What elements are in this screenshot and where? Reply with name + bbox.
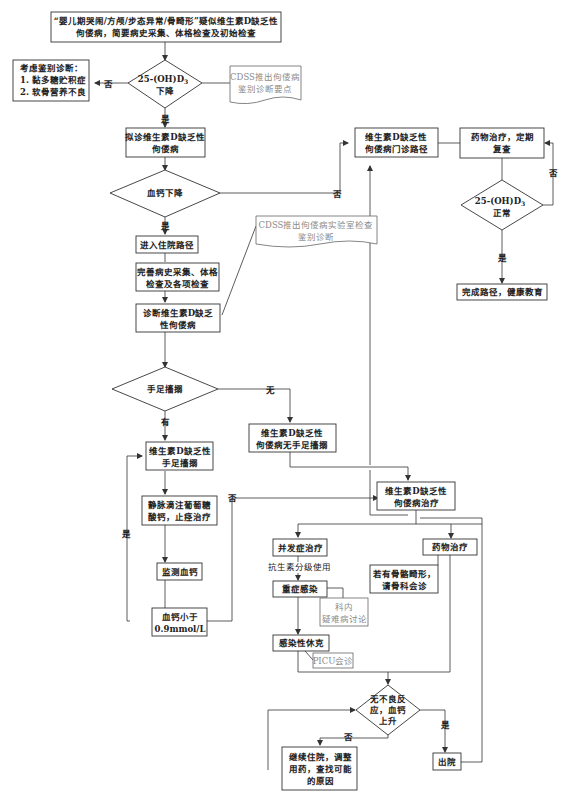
node-complete-path: 完成路径，健康教育: [457, 284, 547, 300]
cdss-note-picu: PICU会诊: [313, 653, 354, 668]
svg-text:科内: 科内: [335, 602, 353, 612]
svg-text:的原因: 的原因: [307, 776, 334, 786]
node-differential-diagnosis: 考虑鉴别诊断： 1. 黏多糖贮积症 2. 软骨营养不良: [13, 60, 89, 101]
svg-text:无不良反: 无不良反: [369, 694, 406, 704]
svg-text:CDSS推出佝偻病: CDSS推出佝偻病: [230, 72, 300, 82]
svg-text:佝偻病，简要病史采集、体格检查及初始检查: 佝偻病，简要病史采集、体格检查及初始检查: [76, 28, 256, 38]
edge-label-yes-loop: 是: [121, 529, 131, 539]
svg-text:佝偻病无手足搐搦: 佝偻病无手足搐搦: [256, 440, 328, 450]
svg-text:维生素D缺乏性: 维生素D缺乏性: [149, 446, 210, 456]
svg-text:手足搐搦: 手足搐搦: [147, 384, 183, 394]
svg-text:复查: 复查: [492, 144, 511, 154]
svg-text:CDSS推出佝偻病实验室检查: CDSS推出佝偻病实验室检查: [259, 220, 374, 230]
node-iv-calcium: 静脉滴注葡萄糖 酸钙，止痉治疗: [142, 496, 217, 525]
edge-label-none: 无: [265, 385, 275, 395]
svg-text:维生素D缺乏性: 维生素D缺乏性: [261, 428, 322, 438]
svg-text:疑难病讨论: 疑难病讨论: [322, 614, 367, 624]
edge-label-yes-complete: 是: [497, 253, 507, 263]
edge-label-no-diffdx: 否: [103, 79, 113, 89]
svg-text:检查及各项检查: 检查及各项检查: [146, 279, 209, 289]
svg-text:请骨科会诊: 请骨科会诊: [382, 581, 427, 591]
edge-label-yes-discharge: 是: [440, 720, 450, 730]
svg-text:佝偻病: 佝偻病: [152, 144, 179, 154]
node-orthopedic-consult: 若有骨骼畸形， 请骨科会诊: [370, 565, 438, 593]
svg-text:并发症治疗: 并发症治疗: [278, 543, 323, 553]
svg-text:佝偻病治疗: 佝偻病治疗: [394, 498, 439, 508]
svg-text:拟诊维生素D缺乏性: 拟诊维生素D缺乏性: [125, 132, 204, 142]
svg-text:感染性休克: 感染性休克: [279, 638, 324, 648]
svg-text:正常: 正常: [493, 208, 511, 218]
edge-label-has: 有: [161, 417, 170, 427]
svg-text:药物治疗，定期: 药物治疗，定期: [471, 132, 534, 142]
svg-text:血钙下降: 血钙下降: [147, 188, 183, 198]
cdss-note-department-discussion: 科内 疑难病讨论: [320, 598, 368, 626]
svg-text:25-(OH)D3: 25-(OH)D3: [138, 74, 188, 85]
decision-no-adverse-reaction: 无不良反 应，血钙 上升: [356, 685, 420, 735]
svg-text:监测血钙: 监测血钙: [162, 567, 198, 577]
edge-label-yes-suspect: 是: [160, 114, 170, 124]
svg-text:用药，查找可能: 用药，查找可能: [288, 764, 352, 774]
svg-text:若有骨骼畸形，: 若有骨骼畸形，: [372, 569, 436, 579]
node-treatment: 维生素D缺乏性 佝偻病治疗: [377, 482, 455, 510]
node-suspected-diagnosis: 拟诊维生素D缺乏性 佝偻病: [125, 128, 205, 157]
svg-text:上升: 上升: [379, 716, 397, 726]
edge-label-no-d3loop: 否: [548, 168, 558, 178]
svg-text:进入住院路径: 进入住院路径: [140, 240, 194, 250]
decision-d3-decrease: 25-(OH)D3 下降: [128, 60, 202, 108]
svg-text:性佝偻病: 性佝偻病: [160, 320, 196, 330]
svg-text:继续住院，调整: 继续住院，调整: [289, 752, 352, 762]
flowchart-canvas: 否 是 否 否 是 是 无 有 是 否 是 否 “婴儿期哭闹/方颅/步态异常/骨…: [0, 0, 567, 799]
label-antibiotic-tiered: 抗生素分级使用: [268, 562, 331, 572]
svg-text:静脉滴注葡萄糖: 静脉滴注葡萄糖: [148, 500, 211, 510]
svg-text:酸钙，止痉治疗: 酸钙，止痉治疗: [148, 512, 211, 522]
edge-label-yes-admit: 是: [160, 221, 170, 231]
node-workup: 完善病史采集、体格 检查及各项检查: [136, 263, 219, 291]
node-septic-shock: 感染性休克: [273, 635, 329, 651]
node-admission-path: 进入住院路径: [136, 236, 198, 253]
decision-calcium-decrease: 血钙下降: [110, 170, 220, 217]
node-calcium-low: 血钙小于 0.9mmol/L: [152, 608, 207, 636]
node-confirmed-diagnosis: 诊断维生素D缺乏 性佝偻病: [136, 304, 220, 332]
svg-text:维生素D缺乏性: 维生素D缺乏性: [385, 486, 446, 496]
decision-d3-normal: 25-(OH)D3 正常: [461, 180, 543, 230]
svg-text:应，血钙: 应，血钙: [370, 705, 406, 715]
svg-text:完成路径，健康教育: 完成路径，健康教育: [462, 287, 543, 297]
svg-text:血钙小于: 血钙小于: [162, 612, 198, 622]
node-severe-infection: 重症感染: [273, 581, 327, 597]
node-drug-treatment: 药物治疗: [423, 539, 477, 555]
node-discharge: 出院: [433, 753, 461, 770]
svg-text:0.9mmol/L: 0.9mmol/L: [155, 624, 206, 634]
edge-label-no-outpatient: 否: [332, 189, 342, 199]
svg-text:药物治疗: 药物治疗: [432, 542, 468, 552]
node-monitor-calcium: 监测血钙: [157, 563, 202, 580]
node-start: “婴儿期哭闹/方颅/步态异常/骨畸形”疑似维生素D缺乏性 佝偻病，简要病史采集、…: [51, 12, 281, 42]
decision-tetany: 手足搐搦: [112, 367, 218, 411]
svg-text:25-(OH)D3: 25-(OH)D3: [475, 196, 525, 207]
svg-text:1. 黏多糖贮积症: 1. 黏多糖贮积症: [20, 75, 86, 85]
svg-text:完善病史采集、体格: 完善病史采集、体格: [137, 267, 218, 277]
svg-text:2. 软骨营养不良: 2. 软骨营养不良: [20, 87, 86, 97]
edge-label-no-continue: 否: [343, 732, 353, 742]
svg-text:鉴别诊断要点: 鉴别诊断要点: [238, 84, 292, 94]
svg-text:“婴儿期哭闹/方颅/步态异常/骨畸形”疑似维生素D缺乏性: “婴儿期哭闹/方颅/步态异常/骨畸形”疑似维生素D缺乏性: [54, 16, 278, 26]
node-complication-treatment: 并发症治疗: [273, 539, 327, 556]
svg-text:维生素D缺乏性: 维生素D缺乏性: [365, 132, 426, 142]
node-no-tetany: 维生素D缺乏性 佝偻病无手足搐搦: [249, 424, 336, 452]
svg-text:鉴别诊断: 鉴别诊断: [298, 232, 334, 242]
svg-text:重症感染: 重症感染: [282, 584, 318, 594]
svg-text:出院: 出院: [438, 757, 456, 767]
svg-text:手足搐搦: 手足搐搦: [162, 458, 198, 468]
svg-text:诊断维生素D缺乏: 诊断维生素D缺乏: [143, 308, 213, 318]
svg-text:考虑鉴别诊断：: 考虑鉴别诊断：: [20, 63, 83, 73]
node-drug-followup: 药物治疗，定期 复查: [460, 128, 544, 158]
node-outpatient-path: 维生素D缺乏性 佝偻病门诊路径: [355, 128, 438, 157]
cdss-note-differential: CDSS推出佝偻病 鉴别诊断要点: [230, 66, 301, 104]
svg-text:佝偻病门诊路径: 佝偻病门诊路径: [365, 144, 428, 154]
node-continue-hospitalization: 继续住院，调整 用药，查找可能 的原因: [282, 747, 357, 790]
svg-text:下降: 下降: [156, 86, 174, 96]
cdss-note-lab-exam: CDSS推出佝偻病实验室检查 鉴别诊断: [256, 216, 377, 247]
edge-label-no-treatment: 否: [227, 493, 237, 503]
node-with-tetany: 维生素D缺乏性 手足搐搦: [146, 442, 213, 470]
svg-text:PICU会诊: PICU会诊: [313, 656, 354, 666]
